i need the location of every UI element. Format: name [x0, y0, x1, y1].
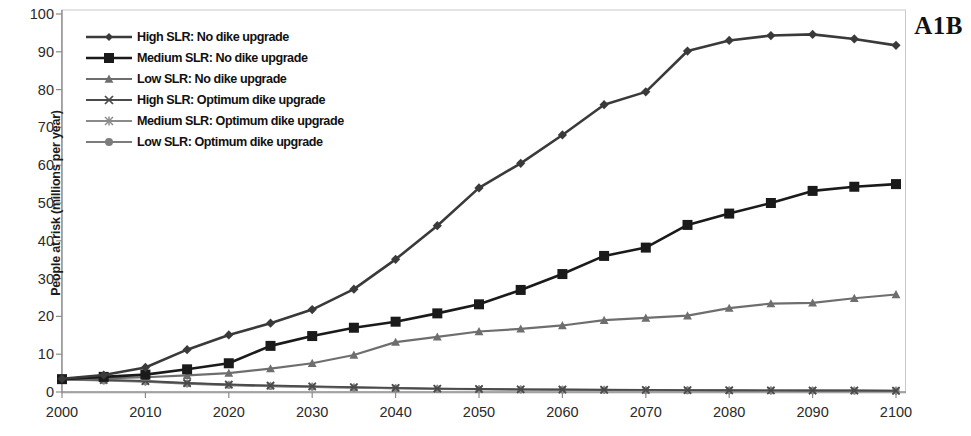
y-axis-tick-label: 40: [10, 233, 54, 249]
legend-swatch: [84, 91, 134, 109]
x-axis-tick-label: 2090: [783, 404, 843, 420]
diamond-marker: [105, 33, 113, 41]
diamond-marker: [850, 34, 859, 43]
square-marker: [808, 186, 818, 196]
square-marker: [724, 209, 734, 219]
x-axis-tick-label: 2000: [32, 404, 92, 420]
chart-legend: High SLR: No dike upgradeMedium SLR: No …: [84, 26, 344, 152]
legend-swatch: [84, 70, 134, 88]
diamond-marker: [183, 345, 192, 354]
legend-swatch: [84, 49, 134, 67]
diamond-marker: [308, 305, 317, 314]
legend-item-6[interactable]: Low SLR: Optimum dike upgrade: [84, 131, 344, 152]
x-axis-tick-label: 2070: [616, 404, 676, 420]
legend-label: Medium SLR: No dike upgrade: [137, 51, 307, 65]
x-axis-tick-label: 2050: [449, 404, 509, 420]
legend-item-2[interactable]: Medium SLR: No dike upgrade: [84, 47, 344, 68]
square-marker: [766, 198, 776, 208]
y-axis-tick-label: 80: [10, 82, 54, 98]
diamond-marker: [266, 319, 275, 328]
square-marker: [307, 331, 317, 341]
diamond-marker: [766, 31, 775, 40]
circle-marker: [105, 138, 113, 146]
legend-swatch: [84, 28, 134, 46]
diamond-marker: [725, 36, 734, 45]
x-axis-tick-label: 2010: [115, 404, 175, 420]
square-marker: [641, 243, 651, 253]
x-axis-tick-label: 2030: [282, 404, 342, 420]
legend-swatch: [84, 112, 134, 130]
diamond-marker: [891, 41, 900, 50]
y-axis-tick-label: 0: [10, 384, 54, 400]
square-marker: [224, 358, 234, 368]
legend-item-4[interactable]: High SLR: Optimum dike upgrade: [84, 89, 344, 110]
x-axis-tick-label: 2060: [532, 404, 592, 420]
square-marker: [849, 182, 859, 192]
x-axis-tick-label: 2080: [699, 404, 759, 420]
square-marker: [104, 53, 114, 63]
square-marker: [391, 317, 401, 327]
y-axis-tick-label: 60: [10, 157, 54, 173]
square-marker: [683, 220, 693, 230]
legend-label: Low SLR: No dike upgrade: [137, 72, 286, 86]
square-marker: [891, 179, 901, 189]
panel-label: A1B: [914, 12, 963, 40]
square-marker: [516, 285, 526, 295]
square-marker: [349, 323, 359, 333]
diamond-marker: [808, 30, 817, 39]
y-axis-tick-label: 20: [10, 308, 54, 324]
x-axis-tick-label: 2040: [366, 404, 426, 420]
square-marker: [557, 269, 567, 279]
legend-item-1[interactable]: High SLR: No dike upgrade: [84, 26, 344, 47]
legend-label: High SLR: Optimum dike upgrade: [137, 93, 325, 107]
x-axis-tick-label: 2100: [866, 404, 926, 420]
square-marker: [266, 341, 276, 351]
chart-figure: People at risk (millions per year) A1B 0…: [0, 0, 971, 436]
legend-item-5[interactable]: Medium SLR: Optimum dike upgrade: [84, 110, 344, 131]
y-axis-tick-label: 100: [10, 6, 54, 22]
square-marker: [432, 308, 442, 318]
diamond-marker: [224, 330, 233, 339]
x-axis-tick-label: 2020: [199, 404, 259, 420]
legend-swatch: [84, 133, 134, 151]
square-marker: [474, 299, 484, 309]
legend-item-3[interactable]: Low SLR: No dike upgrade: [84, 68, 344, 89]
square-marker: [599, 251, 609, 261]
y-axis-tick-label: 70: [10, 119, 54, 135]
y-axis-tick-label: 50: [10, 195, 54, 211]
series-2: [57, 179, 901, 384]
legend-label: Low SLR: Optimum dike upgrade: [137, 135, 323, 149]
square-marker: [182, 364, 192, 374]
legend-label: Medium SLR: Optimum dike upgrade: [137, 114, 344, 128]
y-axis-tick-label: 90: [10, 44, 54, 60]
y-axis-tick-label: 10: [10, 346, 54, 362]
y-axis-tick-label: 30: [10, 271, 54, 287]
legend-label: High SLR: No dike upgrade: [137, 30, 289, 44]
